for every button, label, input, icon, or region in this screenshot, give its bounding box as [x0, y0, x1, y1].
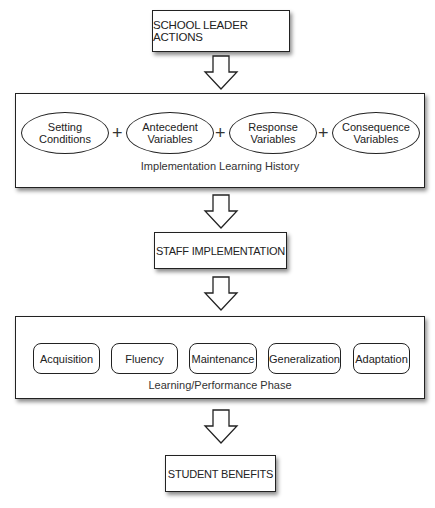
student-benefits-node: STUDENT BENEFITS	[165, 455, 276, 492]
plus-operator: +	[318, 124, 329, 142]
generalization-phase: Generalization	[268, 343, 341, 374]
fluency-phase: Fluency	[111, 343, 178, 374]
performance-phase-caption: Learning/Performance Phase	[16, 379, 424, 391]
node-label: STUDENT BENEFITS	[168, 468, 273, 480]
antecedent-variables-ellipse: AntecedentVariables	[126, 112, 214, 154]
plus-operator: +	[112, 124, 123, 142]
node-label: STAFF IMPLEMENTATION	[156, 245, 285, 257]
down-arrow-icon	[203, 55, 239, 91]
consequence-variables-ellipse: ConsequenceVariables	[332, 112, 420, 154]
down-arrow-icon	[203, 276, 239, 312]
implementation-learning-history-panel: SettingConditions + AntecedentVariables …	[15, 93, 425, 188]
node-label: SCHOOL LEADER ACTIONS	[153, 19, 289, 43]
response-variables-ellipse: ResponseVariables	[229, 112, 317, 154]
down-arrow-icon	[203, 409, 239, 445]
school-leader-actions-node: SCHOOL LEADER ACTIONS	[152, 10, 290, 52]
learning-performance-phase-panel: Acquisition Fluency Maintenance Generali…	[15, 316, 425, 399]
setting-conditions-ellipse: SettingConditions	[21, 112, 109, 154]
down-arrow-icon	[203, 194, 239, 230]
plus-operator: +	[215, 124, 226, 142]
staff-implementation-node: STAFF IMPLEMENTATION	[154, 232, 287, 269]
adaptation-phase: Adaptation	[353, 343, 410, 374]
learning-history-caption: Implementation Learning History	[16, 160, 424, 172]
maintenance-phase: Maintenance	[189, 343, 257, 374]
acquisition-phase: Acquisition	[33, 343, 100, 374]
